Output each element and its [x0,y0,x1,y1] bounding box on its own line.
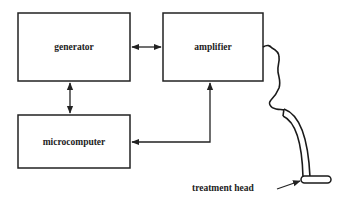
microcomputer-amplifier-arrow [132,83,210,142]
treatment-head-label: treatment head [192,183,255,193]
amplifier-label: amplifier [194,42,232,52]
treatment-head-shape [301,176,331,183]
generator-block: generator [18,13,130,81]
cable [263,45,284,110]
generator-label: generator [54,42,94,52]
treatment-handle [283,109,310,177]
microcomputer-label: microcomputer [43,137,106,147]
amplifier-block: amplifier [163,13,263,81]
treatment-head-pointer-arrow [277,181,300,189]
microcomputer-block: microcomputer [18,115,130,168]
block-diagram: generator amplifier microcomputer treatm… [0,0,346,201]
